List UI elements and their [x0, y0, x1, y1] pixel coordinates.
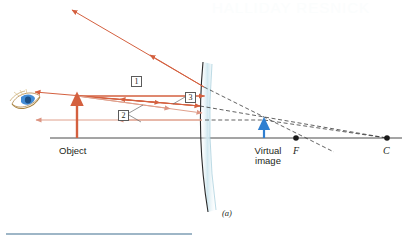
virtual-image-label-line2: image [245, 156, 291, 166]
center-of-curvature-label: C [383, 146, 390, 157]
diagram-canvas [0, 0, 408, 241]
center-of-curvature-dot [384, 135, 390, 141]
dashed-image-to-c [264, 120, 387, 138]
ray-2-leader-b [129, 105, 143, 113]
ray-1-reflected-mid-arrow [150, 55, 204, 87]
dashed-extension-ray3 [200, 106, 387, 138]
ray-diagram-figure: HALLIDAY RESNICK [0, 0, 408, 241]
ray-3-leader [173, 97, 185, 104]
ray-1-number-box: 1 [131, 76, 142, 87]
object-label: Object [59, 146, 86, 156]
focal-point-label: F [293, 146, 299, 157]
panel-label: (a) [222, 209, 232, 218]
ray-3-number-box: 3 [185, 92, 196, 103]
dashed-extension-ray1 [204, 87, 334, 152]
virtual-image-label: Virtual image [245, 146, 291, 166]
ray-2-leader [129, 115, 141, 122]
ray-2-number-box: 2 [118, 110, 129, 121]
focal-point-dot [293, 135, 299, 141]
